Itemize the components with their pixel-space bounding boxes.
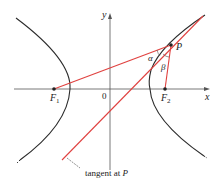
focus-f1-dot <box>52 87 56 91</box>
alpha-arc <box>157 50 160 56</box>
x-axis <box>14 87 210 91</box>
hyperbola-diagram: y x 0 F1 F2 P α β tangent at P <box>0 0 221 185</box>
origin-label: 0 <box>102 91 107 101</box>
hyperbola-right-branch <box>149 15 205 156</box>
x-axis-label: x <box>204 91 210 102</box>
point-p-label: P <box>175 41 182 52</box>
point-p-dot <box>169 43 173 47</box>
alpha-label: α <box>148 53 153 63</box>
y-axis-arrow-icon <box>108 13 112 19</box>
tangent-label: tangent at P <box>85 168 129 178</box>
focus-f2-label: F2 <box>160 92 171 105</box>
tangent-leader <box>67 158 80 168</box>
focus-f2-dot <box>163 87 167 91</box>
y-axis <box>108 13 112 170</box>
focus-f1-label: F1 <box>49 92 60 105</box>
beta-label: β <box>160 62 166 72</box>
y-axis-label: y <box>101 9 107 20</box>
